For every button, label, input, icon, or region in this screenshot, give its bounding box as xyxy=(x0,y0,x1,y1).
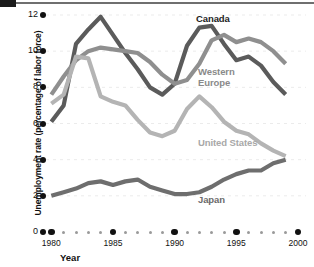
x-tick-label: 1995 xyxy=(219,238,253,248)
y-tick-label: 2 xyxy=(20,190,38,200)
x-axis-minor-dot xyxy=(124,231,127,234)
y-tick-label: 4 xyxy=(20,154,38,164)
y-tick-label: 12 xyxy=(20,9,38,19)
x-axis-minor-dot xyxy=(149,231,152,234)
x-axis-minor-dot xyxy=(161,231,164,234)
x-axis-minor-dot xyxy=(284,231,287,234)
x-tick-label: 1980 xyxy=(34,238,68,248)
x-axis-minor-dot xyxy=(210,231,213,234)
series-label-united-states: United States xyxy=(198,137,260,148)
x-axis-minor-dot xyxy=(272,231,275,234)
y-tick-label: 6 xyxy=(20,118,38,128)
chart-page: Unemployment rate (percentage of labor f… xyxy=(0,0,314,267)
x-axis-minor-dot xyxy=(223,231,226,234)
y-tick-dot xyxy=(40,193,46,199)
y-tick-dot xyxy=(40,121,46,127)
y-tick-label: 0 xyxy=(20,226,38,236)
x-axis-minor-dot xyxy=(87,231,90,234)
series-label-canada: Canada xyxy=(196,13,258,24)
x-axis-minor-dot xyxy=(75,231,78,234)
y-tick-dot xyxy=(40,229,46,235)
x-axis-minor-dot xyxy=(260,231,263,234)
y-tick-label: 8 xyxy=(20,81,38,91)
y-tick-dot xyxy=(40,12,46,18)
y-tick-dot xyxy=(40,157,46,163)
series-label-western-europe: Western Europe xyxy=(198,66,260,88)
x-tick-label: 1990 xyxy=(158,238,192,248)
x-axis-major-dot xyxy=(233,229,240,236)
chart-plot-area xyxy=(0,0,314,267)
x-axis-minor-dot xyxy=(186,231,189,234)
x-axis-major-dot xyxy=(48,229,55,236)
x-axis-minor-dot xyxy=(136,231,139,234)
x-axis-title: Year xyxy=(60,252,80,263)
x-tick-label: 1985 xyxy=(96,238,130,248)
x-axis-minor-dot xyxy=(99,231,102,234)
x-axis-minor-dot xyxy=(247,231,250,234)
y-tick-label: 10 xyxy=(20,45,38,55)
x-axis-major-dot xyxy=(171,229,178,236)
series-line-japan xyxy=(51,160,285,196)
x-axis-minor-dot xyxy=(198,231,201,234)
series-label-japan: Japan xyxy=(198,194,260,205)
x-axis-minor-dot xyxy=(62,231,65,234)
x-tick-label: 2000 xyxy=(281,238,314,248)
